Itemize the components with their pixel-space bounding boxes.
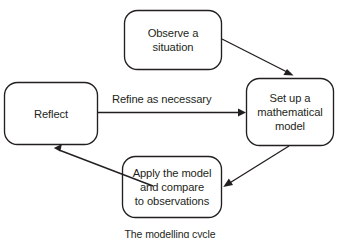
edge-model-to-apply	[223, 146, 289, 187]
node-set-up-mathematical-model[interactable]	[247, 79, 334, 146]
node-observe-situation[interactable]	[125, 11, 222, 70]
node-apply-model-compare[interactable]	[123, 157, 222, 218]
edge-label-refine-as-necessary: Refine as necessary	[112, 93, 211, 106]
modelling-cycle-diagram: Observe a situation Set up a mathematica…	[0, 0, 340, 238]
diagram-caption: The modelling cycle	[0, 228, 340, 238]
diagram-vector-layer	[0, 0, 340, 238]
node-reflect[interactable]	[5, 83, 98, 145]
edge-reflect-to-model	[98, 109, 246, 117]
edge-observe-to-model	[222, 39, 294, 75]
